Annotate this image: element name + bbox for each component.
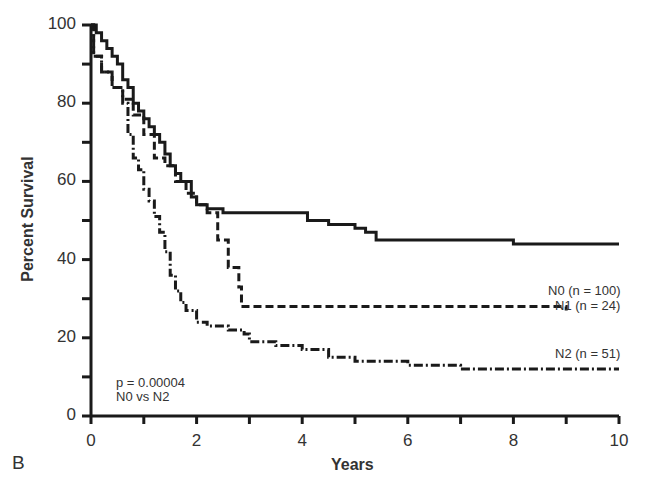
curve-n1 [91, 25, 566, 310]
x-tick-label: 10 [599, 431, 639, 451]
p-value-text: p = 0.00004 [116, 376, 185, 390]
survival-chart [0, 0, 647, 489]
x-tick-label: 8 [493, 431, 533, 451]
series-label-n0: N0 (n = 100) [548, 283, 621, 298]
x-tick-label: 4 [282, 431, 322, 451]
curve-n0 [91, 25, 619, 244]
survival-curves [91, 25, 619, 369]
y-tick-label: 100 [36, 14, 76, 34]
y-tick-label: 40 [36, 249, 76, 269]
comparison-text: N0 vs N2 [116, 390, 185, 404]
y-tick-label: 0 [36, 405, 76, 425]
series-label-n1: N1 (n = 24) [555, 298, 620, 313]
panel-label: B [12, 452, 25, 474]
x-tick-label: 6 [388, 431, 428, 451]
x-tick-label: 2 [177, 431, 217, 451]
y-axis-label: Percent Survival [19, 149, 37, 289]
y-tick-label: 20 [36, 327, 76, 347]
p-value-annotation: p = 0.00004 N0 vs N2 [116, 376, 185, 404]
curve-n2 [91, 25, 619, 369]
series-label-n2: N2 (n = 51) [555, 346, 620, 361]
y-tick-label: 60 [36, 170, 76, 190]
y-tick-label: 80 [36, 92, 76, 112]
x-axis-label: Years [331, 456, 374, 474]
x-tick-label: 0 [71, 431, 111, 451]
